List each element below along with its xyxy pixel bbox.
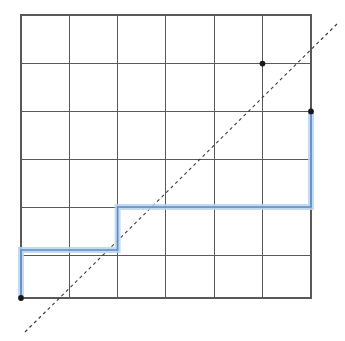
grid-vertical-lines	[21, 15, 311, 298]
diagonal-dashed-line	[25, 22, 339, 332]
lattice-path-figure	[0, 0, 345, 341]
dot-right	[308, 109, 314, 115]
grid-group	[21, 15, 311, 298]
figure-root	[0, 0, 345, 341]
dot-origin	[18, 295, 24, 301]
dot-upper	[260, 61, 266, 67]
diagonal-group	[25, 22, 339, 332]
